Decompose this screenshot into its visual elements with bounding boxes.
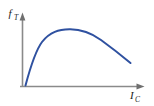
figure-container: f T I C: [0, 0, 154, 106]
fT-vs-IC-plot: f T I C: [0, 0, 154, 106]
